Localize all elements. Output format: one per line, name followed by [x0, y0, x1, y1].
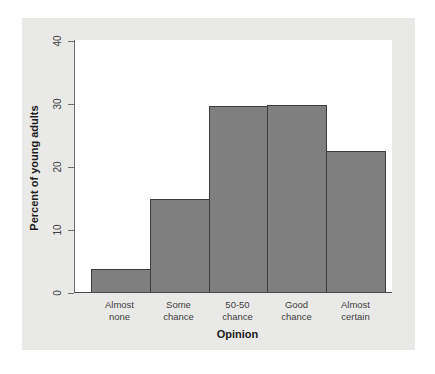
y-tick-mark-0 — [68, 293, 74, 294]
y-tick-label-10: 10 — [48, 221, 66, 239]
x-tick-line-1: Almost — [90, 299, 149, 311]
x-tick-line-1: 50-50 — [208, 299, 267, 311]
plot-area — [74, 40, 392, 293]
y-tick-label-30: 30 — [48, 95, 66, 113]
chart-figure: Percent of young adults 40 30 20 10 0 Al… — [0, 0, 435, 374]
x-axis-tick-labels: Almost none Some chance 50-50 chance Goo… — [90, 299, 385, 323]
x-tick-line-1: Good — [267, 299, 326, 311]
bar-series — [91, 40, 386, 292]
x-tick-line-1: Some — [149, 299, 208, 311]
bar-good-chance — [267, 105, 327, 292]
x-tick-label-50-50-chance: 50-50 chance — [208, 299, 267, 323]
x-tick-line-1: Almost — [326, 299, 385, 311]
bar-almost-none — [91, 269, 151, 292]
x-tick-line-2: certain — [326, 311, 385, 323]
bar-almost-certain — [326, 151, 386, 292]
x-tick-line-2: chance — [149, 311, 208, 323]
x-tick-label-some-chance: Some chance — [149, 299, 208, 323]
x-tick-label-almost-none: Almost none — [90, 299, 149, 323]
y-axis-title-text: Percent of young adults — [28, 105, 40, 230]
x-tick-label-good-chance: Good chance — [267, 299, 326, 323]
y-tick-label-20: 20 — [48, 158, 66, 176]
x-tick-line-2: chance — [267, 311, 326, 323]
x-tick-line-2: chance — [208, 311, 267, 323]
y-axis-title: Percent of young adults — [24, 88, 44, 248]
bar-50-50-chance — [209, 106, 269, 292]
x-axis-title: Opinion — [90, 328, 385, 340]
x-tick-label-almost-certain: Almost certain — [326, 299, 385, 323]
bar-some-chance — [150, 199, 210, 292]
x-tick-line-2: none — [90, 311, 149, 323]
y-tick-label-40: 40 — [48, 32, 66, 50]
y-tick-label-0: 0 — [48, 284, 66, 302]
